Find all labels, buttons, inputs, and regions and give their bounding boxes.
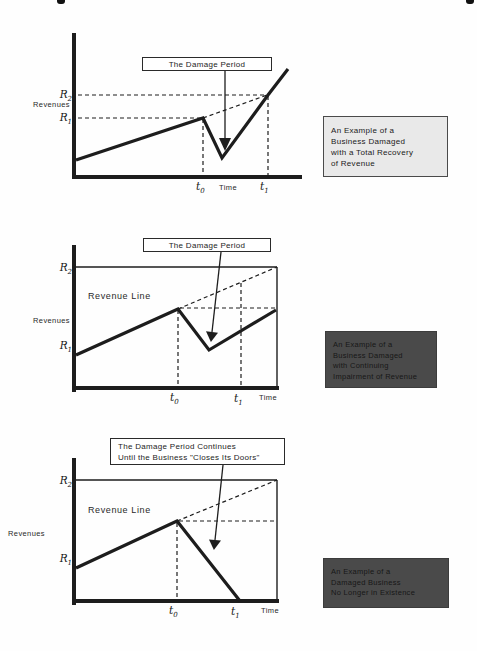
- y-tick-r1: R1: [20, 552, 72, 564]
- note-line: Impairment of Revenue: [333, 372, 429, 383]
- callout-text: The Damage Period: [169, 241, 246, 250]
- damage-period-callout: The Damage Period: [142, 57, 272, 71]
- y-tick-r2: R2: [20, 261, 72, 273]
- note-line: Business Damaged: [331, 136, 440, 147]
- projected-trend-dashed: [178, 267, 277, 309]
- revenue-line: [76, 69, 288, 160]
- y-tick-r1: R1: [20, 339, 72, 351]
- damage-period-arrow: [219, 71, 231, 151]
- note-line: An Example of a: [331, 567, 441, 578]
- x-axis-title: Time: [261, 606, 279, 615]
- revenue-line-label: Revenue Line: [88, 505, 151, 515]
- callout-text: The Damage Period Continues: [118, 441, 236, 452]
- damage-period-callout: The Damage Period Continues Until the Bu…: [110, 438, 285, 465]
- damage-period-callout: The Damage Period: [143, 238, 271, 252]
- y-axis-title: Revenues: [8, 316, 70, 325]
- note-line: Damaged Business: [331, 578, 441, 589]
- y-tick-r1: R1: [20, 111, 72, 123]
- x-tick-t1: t1: [231, 605, 240, 617]
- x-tick-t1: t1: [234, 392, 243, 404]
- x-axis-title: Time: [219, 183, 237, 192]
- caption-note-continuing-impairment: An Example of a Business Damaged with Co…: [325, 331, 437, 388]
- note-line: with Continuing: [333, 361, 429, 372]
- note-line: An Example of a: [333, 340, 429, 351]
- caption-note-no-longer-in-existence: An Example of a Damaged Business No Long…: [323, 558, 449, 608]
- x-tick-t0: t0: [196, 180, 205, 192]
- caption-note-total-recovery: An Example of a Business Damaged with a …: [323, 116, 448, 177]
- note-line: No Longer in Existence: [331, 588, 441, 599]
- note-line: Business Damaged: [333, 351, 429, 362]
- revenue-line-label: Revenue Line: [88, 291, 151, 301]
- callout-text: The Damage Period: [169, 60, 246, 69]
- chart-2-linework: [72, 245, 279, 392]
- chart-1-linework: [72, 33, 302, 179]
- x-axis-title: Time: [259, 393, 277, 402]
- y-axis-title: Revenues: [8, 100, 70, 109]
- projected-trend-dashed: [177, 480, 277, 521]
- note-line: An Example of a: [331, 125, 440, 136]
- figure: The Damage Period R2 Revenues R1 t0 Time…: [0, 0, 477, 651]
- x-tick-t0: t0: [169, 604, 178, 616]
- y-tick-r2: R2: [20, 88, 72, 100]
- y-tick-r2: R2: [20, 474, 72, 486]
- damage-period-arrow: [206, 252, 221, 342]
- callout-text: Until the Business "Closes Its Doors": [118, 452, 260, 463]
- revenue-line: [76, 309, 276, 355]
- note-line: with a Total Recovery: [331, 147, 440, 158]
- y-axis-title: Revenues: [8, 529, 45, 538]
- chart-3-linework: [72, 458, 279, 605]
- x-tick-t0: t0: [170, 391, 179, 403]
- note-line: of Revenue: [331, 158, 440, 169]
- x-tick-t1: t1: [260, 180, 269, 192]
